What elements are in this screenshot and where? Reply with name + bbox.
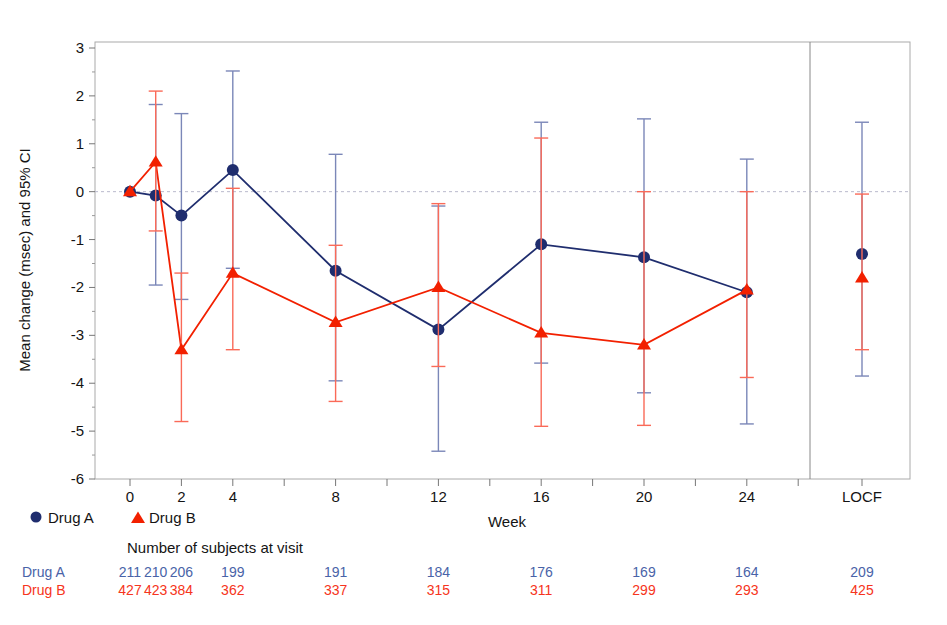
chart-page: 3210-1-2-3-4-5-6 024812162024LOCF Mean c…	[0, 0, 947, 625]
y-tick-label: 3	[76, 39, 84, 56]
subjects-count-cell: 362	[221, 582, 245, 598]
subjects-count-cell: 206	[170, 564, 194, 580]
x-tick-label: 24	[738, 488, 755, 505]
y-tick-label: -3	[71, 326, 84, 343]
legend-marker-triangle-icon	[131, 512, 145, 524]
subjects-count-cell: 311	[530, 582, 553, 598]
subjects-count-cell: 423	[144, 582, 168, 598]
y-tick-label: -4	[71, 374, 84, 391]
x-tick-label: 20	[636, 488, 653, 505]
subjects-count-cell: 299	[632, 582, 656, 598]
plot-border	[95, 42, 910, 479]
subjects-count-cell: 427	[118, 582, 142, 598]
y-tick-label: 2	[76, 87, 84, 104]
y-axis-title: Mean change (msec) and 95% CI	[16, 148, 33, 371]
legend-marker-circle-icon	[31, 512, 42, 523]
legend-label-drug-a: Drug A	[48, 509, 94, 526]
plot-frame	[95, 42, 910, 479]
subjects-count-cell: 164	[735, 564, 759, 580]
subjects-count-cell: 425	[850, 582, 874, 598]
x-tick-label: 8	[331, 488, 339, 505]
x-tick-label: 12	[430, 488, 447, 505]
y-tick-label: -6	[71, 470, 84, 487]
legend-label-drug-b: Drug B	[149, 509, 196, 526]
subjects-count-cell: 209	[850, 564, 874, 580]
x-axis: 024812162024LOCF	[126, 479, 882, 505]
data-point-marker-circle	[175, 210, 187, 222]
mean-change-chart: 3210-1-2-3-4-5-6 024812162024LOCF Mean c…	[0, 0, 947, 625]
subjects-row-label: Drug A	[22, 564, 65, 580]
subjects-table-heading: Number of subjects at visit	[127, 539, 304, 556]
subjects-count-cell: 337	[324, 582, 348, 598]
subjects-count-cell: 176	[530, 564, 554, 580]
y-tick-label: 1	[76, 135, 84, 152]
chart-legend: Drug A Drug B	[31, 509, 196, 526]
x-tick-label: LOCF	[842, 488, 882, 505]
subjects-count-cell: 384	[170, 582, 194, 598]
subjects-count-cell: 191	[324, 564, 348, 580]
y-tick-label: -1	[71, 231, 84, 248]
x-tick-label: 4	[229, 488, 237, 505]
subjects-count-cell: 293	[735, 582, 759, 598]
y-tick-label: -2	[71, 278, 84, 295]
y-tick-label: -5	[71, 422, 84, 439]
subjects-count-cell: 199	[221, 564, 245, 580]
x-axis-title: Week	[488, 513, 527, 530]
subjects-count-cell: 184	[427, 564, 451, 580]
subjects-count-cell: 169	[632, 564, 656, 580]
y-axis: 3210-1-2-3-4-5-6	[71, 39, 95, 487]
x-tick-label: 2	[177, 488, 185, 505]
subjects-table: Drug A211210206199191184176169164209Drug…	[22, 564, 874, 598]
x-tick-label: 16	[533, 488, 550, 505]
data-point-marker-circle	[227, 164, 239, 176]
x-tick-label: 0	[126, 488, 134, 505]
y-tick-label: 0	[76, 183, 84, 200]
subjects-count-cell: 315	[427, 582, 451, 598]
subjects-row-label: Drug B	[22, 582, 66, 598]
subjects-count-cell: 210	[144, 564, 168, 580]
subjects-count-cell: 211	[119, 564, 142, 580]
